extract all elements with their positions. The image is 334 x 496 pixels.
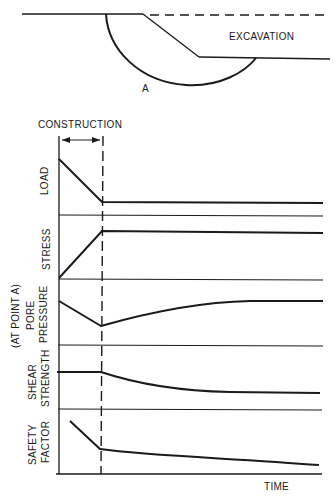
chart-frame — [56, 136, 323, 474]
pore-label-line2: PRESSURE — [38, 286, 49, 343]
time-label: TIME — [264, 481, 289, 492]
safety-factor-curve — [70, 421, 319, 465]
divider-4 — [58, 409, 322, 410]
excavation-slope — [143, 14, 199, 57]
excavation-label: EXCAVATION — [229, 31, 294, 42]
divider-2 — [59, 279, 323, 280]
arrow-left-icon — [62, 137, 70, 143]
divider-3 — [58, 345, 323, 346]
stress-label: STRESS — [41, 228, 52, 270]
excavation-time-diagram: EXCAVATION A CONSTRUCTION LOAD STRESS PO… — [0, 0, 334, 496]
shear-strength-curve — [57, 372, 320, 393]
slip-circle — [106, 14, 256, 85]
load-curve — [59, 159, 323, 203]
shear-label-line2: STRENGTH — [40, 350, 51, 407]
at-point-a-label: (AT POINT A) — [10, 284, 21, 348]
end-of-construction-line — [101, 136, 103, 474]
divider-1 — [59, 215, 323, 216]
excavation-section: EXCAVATION A — [22, 14, 330, 94]
safety-label-line1: SAFETY — [27, 424, 38, 465]
stress-curve — [59, 231, 323, 278]
construction-label: CONSTRUCTION — [38, 119, 122, 130]
shear-label-line1: SHEAR — [27, 364, 38, 400]
load-label: LOAD — [39, 167, 50, 195]
safety-label-line2: FACTOR — [40, 421, 51, 463]
arrow-right-icon — [92, 137, 100, 143]
pore-pressure-curve — [59, 301, 323, 326]
pore-label-line1: PORE — [25, 300, 36, 330]
point-a-label: A — [142, 83, 149, 94]
excavation-floor — [199, 57, 330, 59]
